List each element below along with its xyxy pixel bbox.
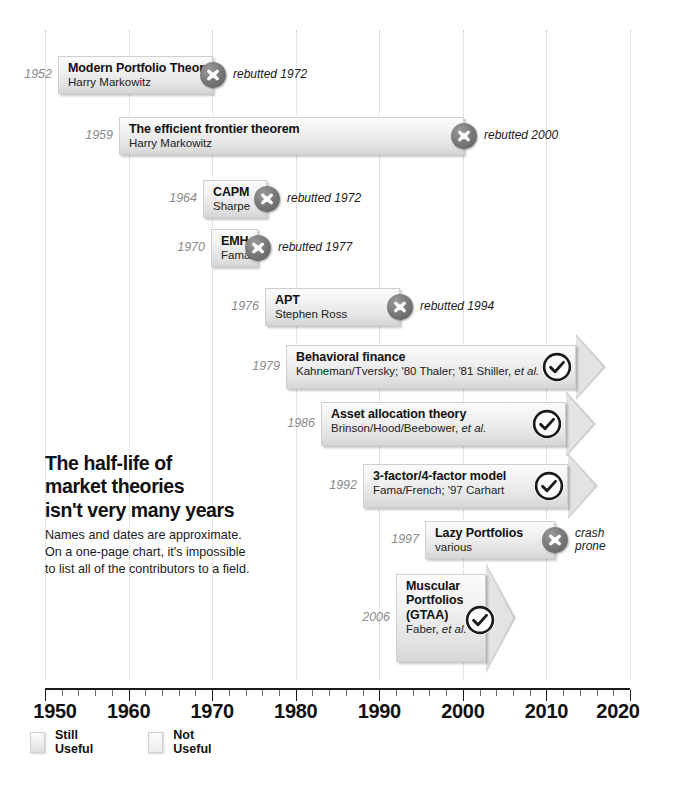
x-circle-icon: [254, 186, 280, 212]
axis-tick-label: 2010: [525, 700, 568, 723]
entry-subtitle: Kahneman/Tversky; '80 Thaler; '81 Shille…: [296, 365, 567, 379]
check-circle-icon: [532, 409, 562, 439]
axis-tick-minor: [597, 690, 598, 696]
axis-tick-minor: [179, 690, 180, 696]
timeline-entry[interactable]: Behavioral financeKahneman/Tversky; '80 …: [286, 345, 576, 389]
legend-swatch: [30, 732, 45, 753]
entry-title: The efficient frontier theorem: [129, 122, 455, 136]
axis-tick-label: 1950: [33, 700, 76, 723]
axis-tick-minor: [162, 690, 163, 696]
x-circle-icon: [200, 62, 226, 88]
entry-year: 1970: [173, 240, 205, 254]
legend-swatch: [148, 732, 163, 753]
axis-tick-minor: [480, 690, 481, 696]
axis-tick-minor: [195, 690, 196, 696]
entry-year: 1997: [387, 532, 419, 546]
axis-tick-minor: [413, 690, 414, 696]
x-circle-icon: [451, 123, 477, 149]
axis-tick-minor: [95, 690, 96, 696]
axis-tick-label: 1970: [190, 700, 233, 723]
axis-tick-minor: [279, 690, 280, 696]
axis-tick-minor: [145, 690, 146, 696]
entry-subtitle: Harry Markowitz: [129, 137, 455, 151]
entry-subtitle: various: [435, 541, 546, 555]
entry-title: 3-factor/4-factor model: [373, 469, 559, 483]
check-circle-icon: [534, 471, 564, 501]
gridline: [630, 30, 631, 680]
entry-year: 1959: [81, 128, 113, 142]
text-line: isn't very many years: [45, 499, 295, 522]
timeline-entry[interactable]: Modern Portfolio TheoryHarry Markowitz: [58, 56, 213, 94]
axis-tick-minor: [62, 690, 63, 696]
axis-tick-minor: [346, 690, 347, 696]
entry-subtitle: Brinson/Hood/Beebower, et al.: [331, 422, 557, 436]
axis-tick-minor: [530, 690, 531, 696]
entry-subtitle: Sharpe: [213, 200, 258, 214]
entry-subtitle: Stephen Ross: [275, 308, 391, 322]
axis-tick-minor: [246, 690, 247, 696]
entry-subtitle: Harry Markowitz: [68, 76, 204, 90]
axis-tick-minor: [262, 690, 263, 696]
x-axis-line: [45, 688, 630, 690]
timeline-entry[interactable]: Lazy Portfoliosvarious: [425, 521, 555, 559]
legend-item-useful: Still Useful: [30, 728, 99, 756]
axis-tick-minor: [312, 690, 313, 696]
legend-label: Not Useful: [173, 728, 217, 756]
text-line: The half-life of: [45, 452, 295, 475]
axis-tick-label: 2000: [441, 700, 484, 723]
entry-note: rebutted 1977: [278, 241, 352, 254]
axis-tick-minor: [229, 690, 230, 696]
entry-note: rebutted 1972: [287, 192, 361, 205]
arrow-head: [566, 391, 596, 457]
page-title: The half-life ofmarket theoriesisn't ver…: [45, 452, 295, 522]
entry-year: 1986: [283, 416, 315, 430]
x-circle-icon: [387, 294, 413, 320]
timeline-entry[interactable]: Asset allocation theoryBrinson/Hood/Beeb…: [321, 402, 566, 446]
x-circle-icon: [245, 235, 271, 261]
axis-tick-minor: [496, 690, 497, 696]
text-line: On a one-page chart, it's impossible: [45, 544, 305, 561]
entry-year: 1976: [227, 299, 259, 313]
entry-note: rebutted 1994: [420, 300, 494, 313]
entry-year: 2006: [358, 610, 390, 624]
timeline-chart: The half-life ofmarket theoriesisn't ver…: [0, 0, 675, 792]
axis-tick-minor: [613, 690, 614, 696]
x-circle-icon: [542, 527, 568, 553]
axis-tick-minor: [513, 690, 514, 696]
axis-tick-label: 1990: [358, 700, 401, 723]
axis-tick-label: 1980: [274, 700, 317, 723]
gridline: [45, 30, 46, 680]
axis-tick-label: 1960: [107, 700, 150, 723]
text-line: to list all of the contributors to a fie…: [45, 561, 305, 578]
entry-year: 1979: [248, 359, 280, 373]
entry-title: APT: [275, 293, 391, 307]
entry-title: CAPM: [213, 185, 258, 199]
axis-tick-minor: [563, 690, 564, 696]
page-note: Names and dates are approximate.On a one…: [45, 527, 305, 578]
entry-title: Asset allocation theory: [331, 407, 557, 421]
entry-title: Lazy Portfolios: [435, 526, 546, 540]
entry-year: 1992: [325, 478, 357, 492]
legend-label: Still Useful: [55, 728, 99, 756]
entry-year: 1964: [165, 191, 197, 205]
text-line: market theories: [45, 475, 295, 498]
timeline-entry[interactable]: The efficient frontier theoremHarry Mark…: [119, 117, 464, 155]
arrow-head: [568, 453, 598, 519]
entry-title: Modern Portfolio Theory: [68, 61, 204, 75]
entry-note: crash prone: [575, 527, 606, 553]
axis-tick-minor: [329, 690, 330, 696]
entry-note: rebutted 2000: [484, 129, 558, 142]
axis-tick-minor: [78, 690, 79, 696]
axis-tick-minor: [580, 690, 581, 696]
check-circle-icon: [542, 352, 572, 382]
axis-tick-minor: [112, 690, 113, 696]
axis-tick-minor: [429, 690, 430, 696]
entry-year: 1952: [20, 67, 52, 81]
axis-tick-minor: [446, 690, 447, 696]
axis-tick-minor: [363, 690, 364, 696]
axis-tick-label: 2020: [596, 700, 639, 723]
timeline-entry[interactable]: APTStephen Ross: [265, 288, 400, 326]
text-line: Muscular: [406, 579, 477, 593]
check-circle-icon: [465, 605, 495, 635]
entry-note: rebutted 1972: [233, 68, 307, 81]
